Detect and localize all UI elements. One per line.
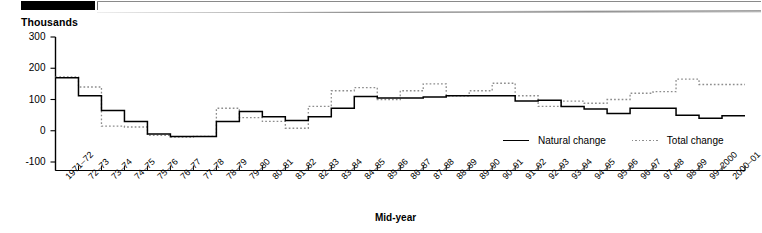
- legend-swatch-dotted: [632, 137, 658, 144]
- legend-label: Total change: [667, 135, 724, 146]
- chart-canvas: [0, 0, 762, 233]
- legend-item: Total change: [632, 135, 724, 146]
- series-line-total-change: [56, 77, 746, 137]
- y-tick-label: 100: [12, 95, 46, 105]
- legend-item: Natural change: [503, 135, 606, 146]
- series-line-natural-change: [56, 78, 746, 137]
- chart-page: Thousands 3002001000-1001971–7272–7373–7…: [0, 0, 762, 233]
- y-tick-label: -100: [12, 157, 46, 167]
- y-tick-label: 0: [12, 126, 46, 136]
- y-tick-label: 300: [12, 32, 46, 42]
- plot-area: [0, 0, 762, 233]
- axis-group: [51, 37, 746, 171]
- chart-legend: Natural changeTotal change: [503, 133, 750, 147]
- y-tick-label: 200: [12, 63, 46, 73]
- x-axis-title: Mid-year: [375, 212, 416, 223]
- legend-swatch-solid: [503, 137, 529, 144]
- legend-label: Natural change: [538, 135, 606, 146]
